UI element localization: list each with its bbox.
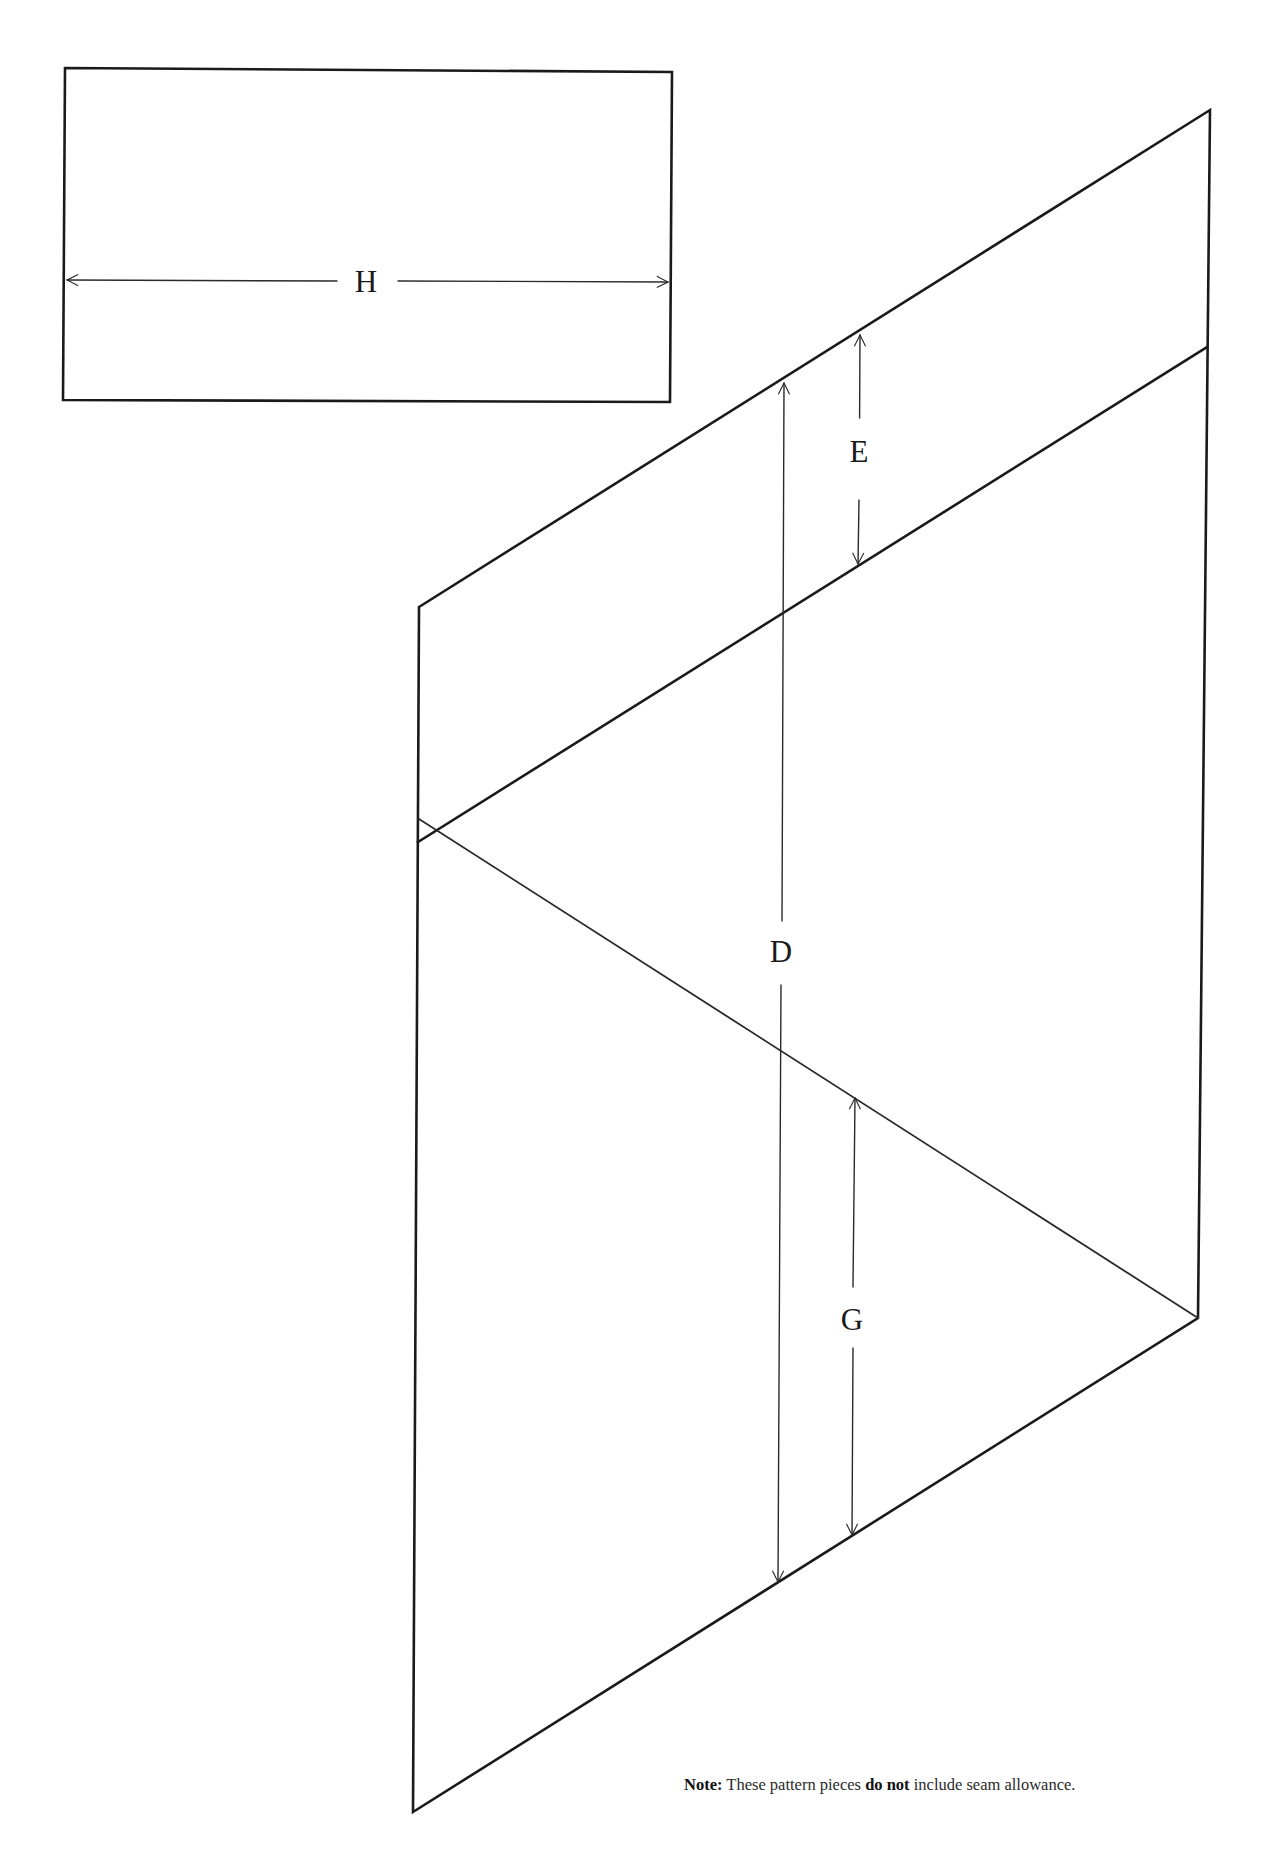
- parallelogram-outline: [413, 110, 1210, 1812]
- rectangle-outline: [63, 68, 672, 402]
- dimension-d-label: D: [770, 934, 792, 969]
- dimension-d: D: [770, 383, 792, 1582]
- note-text-after: include seam allowance.: [910, 1775, 1076, 1794]
- parallelogram-pattern-piece: E D G: [413, 110, 1210, 1812]
- dimension-g-label: G: [841, 1302, 863, 1337]
- seam-allowance-note: Note: These pattern pieces do not includ…: [684, 1775, 1075, 1795]
- dimension-e-label: E: [850, 434, 869, 469]
- diagonal-line: [419, 819, 1198, 1318]
- dimension-e-line-bottom: [858, 500, 859, 564]
- dimension-g: G: [841, 1098, 863, 1535]
- note-text-before: These pattern pieces: [722, 1775, 865, 1794]
- note-prefix: Note:: [684, 1775, 722, 1794]
- dimension-h-line-left: [67, 280, 337, 281]
- dimension-d-line-bottom: [778, 985, 781, 1582]
- dimension-h-line-right: [398, 281, 668, 282]
- dimension-d-line-top: [782, 383, 784, 921]
- dimension-h: H: [67, 264, 668, 299]
- note-emphasis: do not: [865, 1775, 909, 1794]
- pattern-diagram: H E D G: [0, 0, 1273, 1863]
- dimension-g-line-bottom: [852, 1348, 853, 1535]
- fold-line: [418, 347, 1207, 842]
- rectangle-pattern-piece: H: [63, 68, 672, 402]
- dimension-e: E: [850, 335, 869, 564]
- dimension-g-line-top: [853, 1098, 855, 1287]
- dimension-h-label: H: [355, 264, 377, 299]
